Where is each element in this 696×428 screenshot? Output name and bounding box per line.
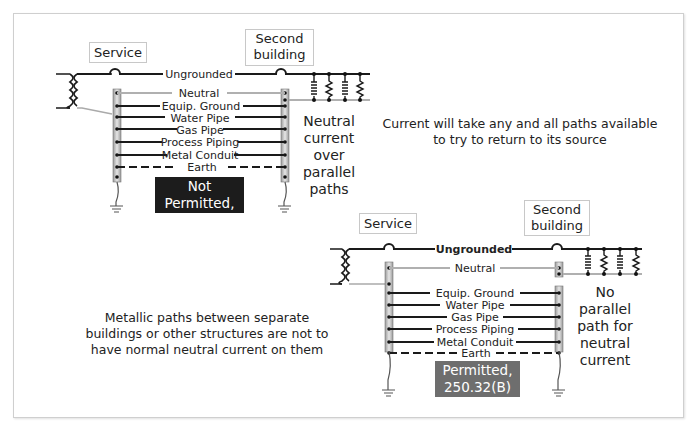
load-coils-icon	[311, 74, 363, 100]
permitted-badge: Permitted, 250.32(B)(1)	[435, 361, 520, 397]
second-building-label: Second building	[524, 200, 590, 236]
transformer-icon	[330, 249, 349, 284]
neutral-current-note: Neutral current over parallel paths	[294, 113, 364, 198]
label-ungrounded: Ungrounded	[165, 68, 233, 81]
label-earth: Earth	[187, 161, 217, 174]
label-earth: Earth	[461, 347, 491, 360]
label-neutral: Neutral	[179, 87, 220, 100]
transformer-icon	[56, 74, 112, 108]
service-label: Service	[89, 42, 147, 63]
not-permitted-badge: Not Permitted, 250.32(B)(1)	[155, 177, 244, 213]
service-label: Service	[359, 213, 417, 234]
metallic-paths-note: Metallic paths between separate building…	[82, 310, 332, 358]
label-neutral: Neutral	[455, 262, 496, 275]
load-coils-icon	[585, 249, 639, 274]
service-bus-bar	[385, 262, 393, 352]
label-process-piping: Process Piping	[436, 323, 515, 336]
second-building-label: Second building	[245, 29, 314, 66]
label-ungrounded: Ungrounded	[436, 243, 513, 256]
paths-note: Current will take any and all paths avai…	[380, 116, 660, 148]
label-process-piping: Process Piping	[161, 136, 240, 149]
no-parallel-path-note: No parallel path for neutral current	[570, 284, 640, 369]
